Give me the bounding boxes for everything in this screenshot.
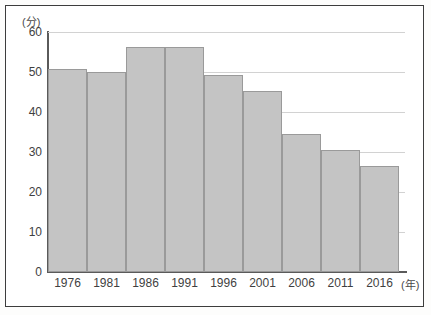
x-tick-label-1981: 1981 <box>93 276 120 290</box>
bar-2016 <box>360 166 399 272</box>
y-tick-label-0: 0 <box>2 265 42 279</box>
bar-1991 <box>165 47 204 272</box>
y-axis-tick-labels: 0 10 20 30 40 50 60 <box>0 0 42 315</box>
x-tick-label-1986: 1986 <box>132 276 159 290</box>
bar-2006 <box>282 134 321 272</box>
plot-wrapper: (分) 0 10 20 30 40 50 60 1976198119861991… <box>0 0 431 315</box>
chart-figure: (分) 0 10 20 30 40 50 60 1976198119861991… <box>0 0 431 315</box>
gridline-60 <box>48 32 405 33</box>
y-tick-label-50: 50 <box>2 65 42 79</box>
bar-1996 <box>204 75 243 272</box>
bar-1976 <box>48 69 87 272</box>
x-tick-label-1991: 1991 <box>171 276 198 290</box>
bar-1986 <box>126 47 165 272</box>
x-axis-unit-label: (年) <box>401 276 419 292</box>
x-tick-label-1976: 1976 <box>54 276 81 290</box>
bar-2001 <box>243 91 282 272</box>
bar-2011 <box>321 150 360 272</box>
x-axis-tick-labels: 197619811986199119962001200620112016 <box>48 276 399 298</box>
y-tick-label-60: 60 <box>2 25 42 39</box>
y-tick-label-40: 40 <box>2 105 42 119</box>
bar-1981 <box>87 72 126 272</box>
x-tick-label-2001: 2001 <box>249 276 276 290</box>
x-tick-label-2011: 2011 <box>328 276 354 290</box>
x-tick-label-2006: 2006 <box>288 276 315 290</box>
x-tick-label-1996: 1996 <box>210 276 237 290</box>
y-tick-label-30: 30 <box>2 145 42 159</box>
plot-area <box>48 32 399 272</box>
y-tick-label-10: 10 <box>2 225 42 239</box>
y-tick-label-20: 20 <box>2 185 42 199</box>
x-tick-label-2016: 2016 <box>366 276 393 290</box>
